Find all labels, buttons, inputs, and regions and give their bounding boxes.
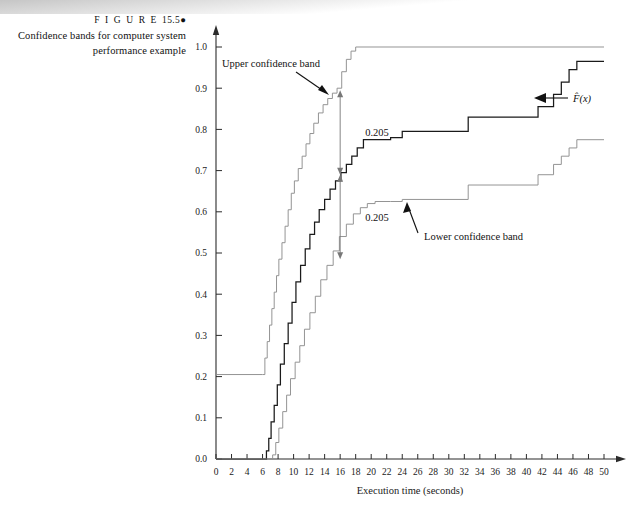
gap-label-1: 0.205 [365, 212, 389, 223]
x-tick-label: 12 [304, 467, 314, 477]
x-tick-label: 46 [568, 467, 578, 477]
x-tick-label: 50 [599, 467, 609, 477]
x-tick-label: 38 [506, 467, 516, 477]
x-tick-label: 4 [245, 467, 250, 477]
y-tick-label: 0.7 [195, 166, 207, 176]
gap-arrow-up-icon-1 [337, 175, 343, 182]
figure-plot: 0246810121416182022242628303234363840424… [0, 0, 630, 510]
curves [216, 47, 604, 459]
x-axis-title: Execution time (seconds) [357, 485, 464, 497]
y-tick-label: 0.5 [195, 248, 207, 258]
lower-band-leader [409, 209, 418, 233]
gap-arrow-down-icon-1 [337, 252, 343, 259]
upper-band-label: Upper confidence band [222, 58, 321, 69]
x-tick-label: 16 [335, 467, 345, 477]
x-tick-label: 30 [444, 467, 454, 477]
x-tick-label: 28 [429, 467, 439, 477]
x-tick-label: 34 [475, 467, 485, 477]
y-axis-arrowhead-icon [213, 25, 219, 35]
lower-band-label: Lower confidence band [424, 231, 524, 242]
x-tick-label: 14 [320, 467, 330, 477]
x-tick-label: 26 [413, 467, 423, 477]
gap-arrow-down-icon-0 [337, 168, 343, 175]
x-tick-label: 36 [491, 467, 501, 477]
x-tick-label: 8 [276, 467, 281, 477]
gap-label-0: 0.205 [365, 127, 389, 138]
y-tick-label: 0.6 [195, 207, 207, 217]
gap-markers: 0.2050.205 [337, 90, 389, 259]
y-tick-label: 0.2 [195, 372, 207, 382]
x-tick-label: 22 [382, 467, 392, 477]
axes: 0246810121416182022242628303234363840424… [195, 25, 626, 497]
series-1-path [216, 61, 604, 459]
ecdf-arrow-icon [534, 93, 546, 103]
x-tick-label: 0 [214, 467, 219, 477]
x-tick-label: 18 [351, 467, 361, 477]
y-tick-label: 0.3 [195, 331, 207, 341]
x-tick-label: 20 [366, 467, 376, 477]
y-tick-label: 0.8 [195, 125, 207, 135]
y-tick-label: 0.1 [195, 413, 207, 423]
gap-arrow-up-icon-0 [337, 90, 343, 97]
x-tick-label: 40 [522, 467, 532, 477]
x-tick-label: 2 [229, 467, 234, 477]
x-axis-arrowhead-icon [616, 456, 626, 462]
ecdf-label: F̂(x) [572, 92, 592, 105]
x-tick-label: 6 [260, 467, 265, 477]
upper-band-arrow-icon [318, 85, 329, 95]
x-tick-label: 32 [460, 467, 470, 477]
x-tick-label: 44 [553, 467, 563, 477]
y-tick-label: 0.0 [195, 454, 207, 464]
plot-annotations: Upper confidence bandLower confidence ba… [222, 58, 592, 242]
y-tick-label: 0.9 [195, 84, 207, 94]
x-tick-label: 24 [397, 467, 407, 477]
x-tick-label: 48 [584, 467, 594, 477]
y-tick-label: 1.0 [195, 42, 207, 52]
y-tick-label: 0.4 [195, 290, 207, 300]
x-tick-label: 42 [537, 467, 547, 477]
x-tick-label: 10 [289, 467, 299, 477]
